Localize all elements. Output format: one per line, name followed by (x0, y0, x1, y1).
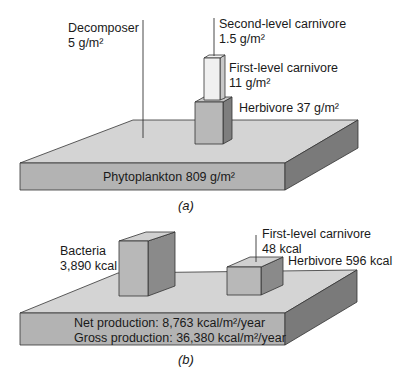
first-carnivore-label: First-level carnivore 11 g/m² (229, 61, 338, 91)
second-carnivore-name: Second-level carnivore (219, 17, 346, 32)
bacteria-label: Bacteria 3,890 kcal (60, 244, 117, 274)
bacteria-name: Bacteria (60, 244, 117, 259)
bacteria-box-side (148, 232, 175, 296)
panel-a-caption: (a) (178, 198, 194, 213)
herbivore-b-label: Herbivore 596 kcal (288, 254, 392, 269)
first-carnivore-value: 11 g/m² (229, 76, 338, 91)
herbivore-box-side (223, 97, 232, 144)
first-carnivore-b-label: First-level carnivore 48 kcal (262, 227, 371, 257)
second-carnivore-value: 1.5 g/m² (219, 32, 346, 47)
gross-production-label: Gross production: 36,380 kcal/m²/year (74, 331, 286, 346)
bacteria-value: 3,890 kcal (60, 259, 117, 274)
decomposer-value: 5 g/m² (68, 36, 139, 51)
decomposer-name: Decomposer (68, 21, 139, 36)
second-carnivore-label: Second-level carnivore 1.5 g/m² (219, 17, 346, 47)
herbivore-box-front (195, 102, 223, 144)
first-carnivore-box-side (220, 55, 225, 100)
panel-b-caption: (b) (178, 352, 194, 367)
first-carnivore-name: First-level carnivore (229, 61, 338, 76)
herbivore-label: Herbivore 37 g/m² (239, 101, 339, 116)
herbivore-b-box-front (227, 267, 261, 295)
decomposer-label: Decomposer 5 g/m² (68, 21, 139, 51)
bacteria-box-front (119, 241, 148, 296)
first-carnivore-box-front (204, 58, 220, 100)
first-carnivore-b-name: First-level carnivore (262, 227, 371, 242)
phytoplankton-label: Phytoplankton 809 g/m² (103, 170, 235, 185)
net-production-label: Net production: 8,763 kcal/m²/year (74, 316, 265, 331)
